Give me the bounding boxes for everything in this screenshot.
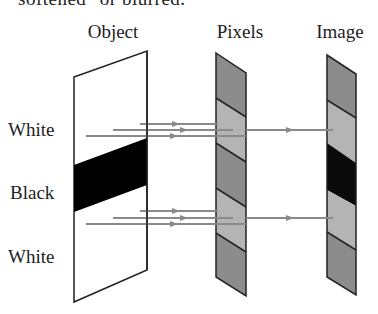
label-white-bottom: White bbox=[8, 246, 54, 267]
title-object: Object bbox=[88, 21, 139, 42]
title-pixels: Pixels bbox=[217, 21, 263, 42]
title-image: Image bbox=[316, 21, 363, 42]
object-panel bbox=[74, 51, 147, 302]
imaging-diagram: Object Pixels Image White Black White bbox=[0, 0, 378, 314]
image-panel bbox=[327, 55, 356, 295]
label-black: Black bbox=[10, 182, 55, 203]
pixels-panel bbox=[216, 53, 246, 296]
label-white-top: White bbox=[8, 119, 54, 140]
